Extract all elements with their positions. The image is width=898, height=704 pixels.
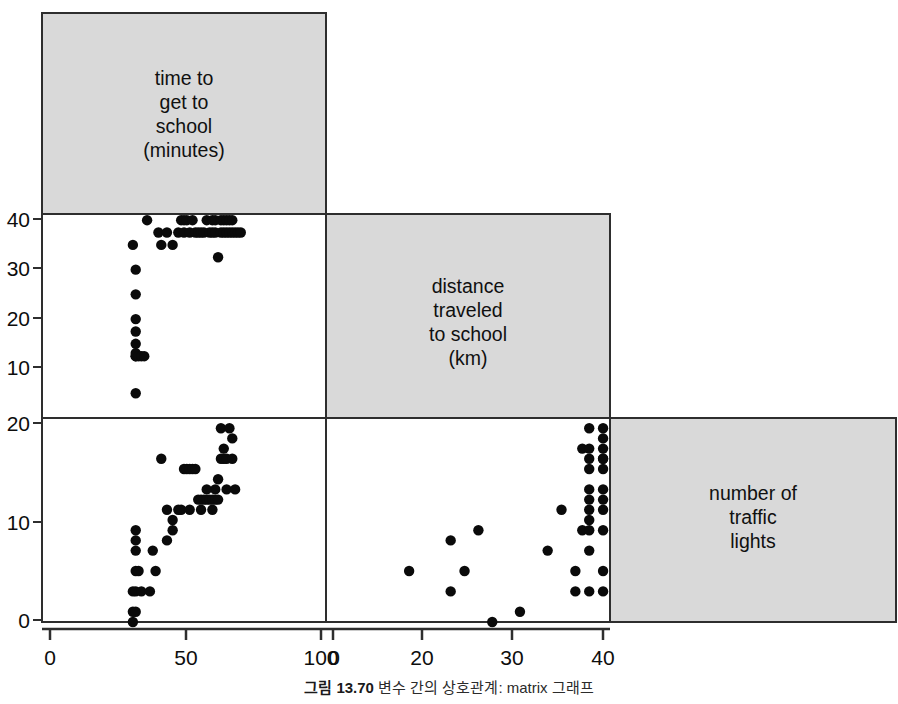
data-point	[584, 484, 594, 494]
data-point	[167, 525, 177, 535]
data-point	[190, 464, 200, 474]
data-point	[131, 525, 141, 535]
data-point	[131, 607, 141, 617]
data-point	[542, 545, 552, 555]
diagonal-label-time-line4: (minutes)	[143, 139, 224, 161]
diagonal-cell-distance: distance traveled to school (km)	[326, 214, 610, 418]
data-point	[224, 423, 234, 433]
diagonal-label-distance-line3: to school	[429, 323, 507, 345]
data-point	[131, 314, 141, 324]
y-tick-label-lights-0: 0	[18, 609, 30, 632]
data-point	[445, 586, 455, 596]
diagonal-label-lights-line2: traffic	[729, 506, 777, 528]
scatterplot-matrix: time to get to school (minutes) distance…	[0, 0, 898, 704]
data-point	[473, 525, 483, 535]
x-tick-label-distance-20: 20	[410, 646, 433, 669]
data-point	[598, 454, 608, 464]
diagonal-label-time-line3: school	[156, 115, 212, 137]
y-axis-bottom-row: 20 10 0	[7, 412, 42, 632]
data-point	[162, 227, 172, 237]
x-axis-distance: 0 20 30 40	[326, 629, 615, 669]
y-tick-label-40: 40	[7, 208, 30, 231]
data-point	[584, 464, 594, 474]
data-point	[227, 433, 237, 443]
data-point	[598, 525, 608, 535]
y-tick-label-10: 10	[7, 356, 30, 379]
data-point	[445, 535, 455, 545]
x-axis-time: 0 50 100	[42, 629, 339, 669]
figure-container: time to get to school (minutes) distance…	[0, 0, 898, 704]
data-point	[213, 252, 223, 262]
x-tick-label-time-0: 0	[44, 646, 56, 669]
y-tick-label-lights-20: 20	[7, 412, 30, 435]
data-point	[156, 454, 166, 464]
panel-frame-lights-vs-time	[42, 418, 326, 622]
data-point	[167, 515, 177, 525]
data-point	[584, 545, 594, 555]
data-point	[128, 240, 138, 250]
data-point	[162, 535, 172, 545]
data-point	[584, 505, 594, 515]
data-point	[150, 566, 160, 576]
data-point	[128, 617, 138, 627]
diagonal-label-distance-line4: (km)	[449, 347, 488, 369]
diagonal-label-time-line2: get to	[160, 91, 209, 113]
data-point	[598, 586, 608, 596]
data-point	[584, 525, 594, 535]
data-point	[570, 566, 580, 576]
data-point	[213, 474, 223, 484]
data-point	[148, 545, 158, 555]
panel-frame-lights-vs-distance	[326, 418, 610, 622]
y-axis-middle-row: 40 30 20 10	[7, 208, 42, 379]
data-point	[236, 227, 246, 237]
data-point	[584, 494, 594, 504]
data-point	[131, 326, 141, 336]
data-point	[227, 454, 237, 464]
data-point	[131, 545, 141, 555]
figure-caption: 그림 13.70 변수 간의 상호관계: matrix 그래프	[0, 676, 898, 697]
data-point	[142, 215, 152, 225]
data-point	[487, 617, 497, 627]
data-point	[584, 423, 594, 433]
data-point	[202, 484, 212, 494]
figure-caption-number: 그림 13.70	[304, 679, 374, 696]
data-point	[167, 240, 177, 250]
data-point	[131, 388, 141, 398]
x-tick-label-time-50: 50	[174, 646, 197, 669]
y-tick-label-20: 20	[7, 307, 30, 330]
data-point	[184, 505, 194, 515]
data-point	[131, 535, 141, 545]
data-point	[196, 505, 206, 515]
y-tick-label-lights-10: 10	[7, 511, 30, 534]
data-point	[131, 339, 141, 349]
data-point	[156, 240, 166, 250]
x-tick-label-distance-30: 30	[500, 646, 523, 669]
data-point	[598, 494, 608, 504]
data-point	[570, 586, 580, 596]
data-point	[584, 515, 594, 525]
x-tick-label-distance-40: 40	[591, 646, 614, 669]
data-point	[584, 586, 594, 596]
data-point	[584, 443, 594, 453]
panel-frame-distance-vs-time	[42, 214, 326, 418]
data-point	[139, 351, 149, 361]
figure-caption-text: 변수 간의 상호관계: matrix 그래프	[378, 679, 594, 696]
data-point	[213, 494, 223, 504]
data-point	[515, 607, 525, 617]
x-tick-label-distance-0: 0	[328, 646, 340, 669]
diagonal-cell-lights: number of traffic lights	[610, 418, 896, 622]
data-point	[230, 484, 240, 494]
data-point	[219, 443, 229, 453]
data-point	[162, 505, 172, 515]
data-point	[598, 505, 608, 515]
diagonal-label-distance-line2: traveled	[433, 299, 502, 321]
diagonal-label-distance-line1: distance	[432, 275, 505, 297]
diagonal-label-lights-line1: number of	[709, 482, 797, 504]
data-point	[131, 264, 141, 274]
data-point	[598, 566, 608, 576]
data-point	[556, 505, 566, 515]
data-point	[227, 215, 237, 225]
data-point	[145, 586, 155, 596]
data-point	[598, 464, 608, 474]
data-point	[207, 505, 217, 515]
